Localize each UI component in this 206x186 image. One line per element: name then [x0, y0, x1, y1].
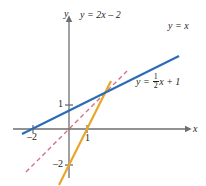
blue-line-equation-label: y = 12x + 1 — [136, 73, 180, 91]
fraction-numerator: 1 — [153, 73, 159, 81]
dashed-line-equation-label: y = x — [168, 21, 189, 31]
y-axis-label: y — [64, 9, 68, 19]
one-half-fraction: 12 — [153, 73, 159, 91]
y-tick-label-1: 1 — [58, 99, 63, 109]
gold-line-equation-label: y = 2x – 2 — [80, 10, 121, 20]
blue-line-equation-suffix: x + 1 — [159, 76, 180, 87]
line-y-equals-x — [26, 71, 127, 172]
blue-line-equation-prefix: y = — [136, 76, 152, 87]
x-tick-label-neg2: –2 — [27, 132, 37, 142]
line-y-equals-half-x-plus-1 — [22, 56, 179, 134]
y-tick-label-neg2: –2 — [53, 159, 63, 169]
x-tick-label-1: 1 — [85, 133, 90, 143]
x-axis-label: x — [193, 124, 197, 134]
fraction-denominator: 2 — [153, 81, 159, 90]
graph-figure: y x y = 2x – 2 y = x y = 12x + 1 –2 1 1 … — [0, 0, 206, 186]
